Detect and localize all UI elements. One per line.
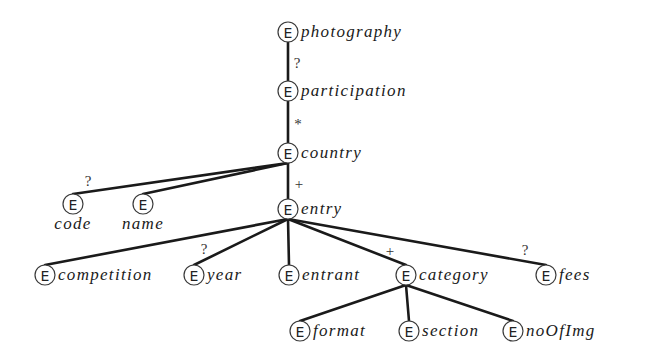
- node-label-code: code: [54, 214, 91, 233]
- node-fees: Efees: [536, 265, 591, 285]
- node-code: Ecode: [54, 194, 91, 233]
- node-entry: Eentry: [278, 199, 342, 219]
- element-marker: E: [284, 25, 293, 41]
- element-marker: E: [41, 268, 50, 284]
- schema-tree-diagram: EphotographyEparticipationEcountryEcodeE…: [0, 0, 645, 360]
- element-marker: E: [139, 197, 148, 213]
- cardinality-country: *: [294, 116, 302, 132]
- edge-country-code: [73, 163, 288, 194]
- element-marker: E: [284, 202, 293, 218]
- cardinality-participation: ?: [294, 55, 301, 71]
- cardinality-fees: ?: [522, 242, 529, 258]
- node-label-country: country: [301, 143, 362, 162]
- nodes-layer: EphotographyEparticipationEcountryEcodeE…: [35, 22, 596, 341]
- edge-category-noOfImg: [406, 285, 513, 321]
- edge-entry-year: [194, 219, 288, 265]
- element-marker: E: [284, 84, 293, 100]
- element-marker: E: [402, 268, 411, 284]
- node-label-fees: fees: [559, 265, 591, 284]
- cardinality-entry: +: [295, 176, 303, 192]
- node-format: Eformat: [290, 321, 366, 341]
- node-label-year: year: [205, 265, 242, 284]
- element-marker: E: [509, 324, 518, 340]
- node-label-competition: competition: [58, 265, 153, 284]
- node-label-entrant: entrant: [302, 265, 360, 284]
- element-marker: E: [542, 268, 551, 284]
- element-marker: E: [285, 268, 294, 284]
- node-noOfImg: EnoOfImg: [503, 321, 596, 341]
- node-label-photography: photography: [300, 22, 402, 41]
- edge-category-format: [300, 285, 406, 321]
- element-marker: E: [405, 324, 414, 340]
- element-marker: E: [69, 197, 78, 213]
- node-photography: Ephotography: [278, 22, 402, 42]
- element-marker: E: [296, 324, 305, 340]
- cardinality-year: ?: [201, 241, 208, 257]
- node-participation: Eparticipation: [278, 81, 407, 101]
- edge-entry-fees: [288, 219, 546, 265]
- node-country: Ecountry: [278, 143, 362, 163]
- element-marker: E: [284, 146, 293, 162]
- cardinality-code: ?: [85, 173, 92, 189]
- node-label-section: section: [422, 321, 479, 340]
- node-label-format: format: [313, 321, 366, 340]
- node-entrant: Eentrant: [279, 265, 360, 285]
- edge-entry-entrant: [288, 219, 289, 265]
- element-marker: E: [190, 268, 199, 284]
- cardinality-category: +: [386, 243, 394, 259]
- node-label-category: category: [419, 265, 489, 284]
- node-category: Ecategory: [396, 265, 489, 285]
- node-section: Esection: [399, 321, 479, 341]
- node-label-entry: entry: [301, 199, 342, 218]
- node-label-participation: participation: [300, 81, 407, 100]
- node-label-noOfImg: noOfImg: [526, 321, 596, 340]
- node-label-name: name: [122, 214, 164, 233]
- edge-country-name: [143, 163, 288, 194]
- node-name: Ename: [122, 194, 164, 233]
- node-competition: Ecompetition: [35, 265, 153, 285]
- node-year: Eyear: [184, 265, 242, 285]
- edge-category-section: [406, 285, 409, 321]
